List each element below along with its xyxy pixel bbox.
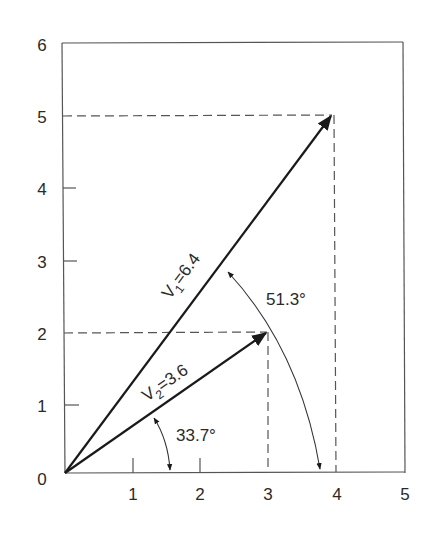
x-label-1: 1 — [128, 485, 137, 504]
v2-y-projection — [64, 332, 267, 333]
angle-label-51: 51.3° — [266, 290, 306, 309]
vector-v2 — [65, 333, 266, 473]
v1-y-projection — [63, 115, 332, 116]
y-label-0: 0 — [37, 470, 46, 489]
x-label-5: 5 — [400, 485, 409, 504]
y-label-6: 6 — [37, 36, 46, 55]
y-ticks — [63, 188, 79, 405]
y-label-3: 3 — [37, 253, 46, 272]
v1-x-projection — [334, 115, 336, 472]
x-label-4: 4 — [332, 485, 341, 504]
x-axis — [65, 472, 405, 473]
y-label-5: 5 — [37, 108, 46, 127]
y-axis — [62, 43, 65, 473]
angle-arc-v2 — [154, 418, 170, 470]
y-tick-labels: 6 5 4 3 2 1 0 — [37, 36, 46, 489]
y-label-2: 2 — [37, 325, 46, 344]
y-label-4: 4 — [37, 180, 46, 199]
x-ticks — [133, 458, 200, 473]
v1-label: V1=6.4 — [158, 250, 207, 305]
y-label-1: 1 — [37, 397, 46, 416]
x-label-3: 3 — [263, 485, 272, 504]
vector-diagram: 6 5 4 3 2 1 0 1 2 3 4 5 V1=6.4 V2=3.6 51… — [0, 0, 429, 536]
x-label-2: 2 — [195, 485, 204, 504]
x-tick-labels: 1 2 3 4 5 — [128, 485, 409, 504]
angle-label-33: 33.7° — [176, 426, 216, 445]
